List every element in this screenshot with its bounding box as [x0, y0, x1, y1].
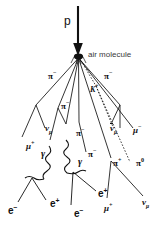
track-nu-mu-bar [112, 105, 120, 122]
e-minus-1-label: e− [8, 205, 18, 216]
pi-minus-right-upper-label: π− [104, 70, 112, 81]
nu-mu-left-label: νμ [45, 124, 52, 135]
nu-mu-bottom-label: νμ [142, 198, 149, 209]
gamma-ray-right-wave [64, 140, 70, 173]
track-pi-minus-right-outer [79, 58, 134, 128]
track-mu-plus-bottom [107, 161, 111, 198]
e-plus-2-label: e+ [98, 188, 108, 199]
track-pi-minus-left [36, 58, 79, 105]
primary-proton-track [73, 6, 83, 56]
e-minus-2-label: e− [74, 208, 84, 219]
mu-plus-left-label: μ+ [26, 140, 35, 151]
track-e-plus-1 [32, 178, 46, 200]
track-pi-minus-right-upper [79, 58, 121, 105]
track-e-minus-2 [71, 172, 73, 205]
track-pi-minus-center [66, 58, 79, 124]
pair-production-fork-right [71, 172, 96, 205]
e-plus-1-label: e+ [50, 198, 60, 209]
pi-zero-label: π0 [136, 157, 144, 168]
track-pi-minus-center2 [79, 58, 80, 122]
pi-minus-center-label: π− [76, 127, 84, 138]
air-shower-diagram: p air molecule π− π− π− K+ νμ μ+ π− π− ν… [0, 0, 161, 235]
gamma-right-label: γ [78, 157, 82, 167]
gamma-ray-left-wave-tail [25, 177, 44, 180]
gamma-left-label: γ [41, 149, 45, 159]
shower-vector-layer [0, 0, 161, 235]
track-nu-mu-left [36, 105, 45, 128]
pi-minus-left-upper-label: π− [48, 70, 56, 81]
left-mid-pion-decay-tracks [50, 108, 66, 140]
air-molecule-label: air molecule [88, 51, 131, 59]
track-e-plus-2 [73, 172, 96, 191]
primary-proton-label: p [64, 15, 71, 27]
gamma-ray-right-wave-tail [67, 170, 86, 174]
mu-minus-right-label: μ− [133, 124, 142, 135]
left-pion-decay-tracks [22, 105, 45, 137]
pi-plus-label: π+ [113, 157, 121, 168]
pair-production-fork-left [18, 178, 46, 202]
pi-minus-left-mid-label: π− [61, 100, 69, 111]
track-e-minus-1 [18, 178, 32, 202]
pi-minus-center-low-label: π− [88, 148, 96, 159]
track-mu-plus-left [22, 105, 36, 137]
nu-mu-bar-right-label: νμ [110, 124, 117, 135]
k-plus-label: K+ [90, 84, 98, 94]
mu-plus-bottom-label: μ+ [104, 202, 113, 213]
secondary-particle-tracks [36, 58, 133, 128]
